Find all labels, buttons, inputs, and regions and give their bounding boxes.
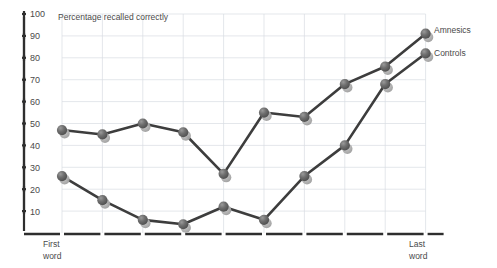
grid-lines [62,14,426,233]
marker-ball [380,79,390,89]
marker-ball [219,202,229,212]
marker-ball [380,61,390,71]
data-point-marker [421,29,434,43]
y-axis-tick-label: 100 [30,9,45,19]
marker-ball [259,215,269,225]
line-chart: 102030405060708090100 Percentage recalle… [0,0,497,268]
marker-ball [178,127,188,137]
y-axis-tick-label: 90 [30,31,40,41]
data-point-marker [57,171,70,185]
y-axis-tick-label: 50 [30,119,40,129]
y-axis-tick-label: 40 [30,141,40,151]
y-axis-tick-label: 10 [30,207,40,217]
marker-ball [299,112,309,122]
data-point-marker [97,195,110,209]
x-axis-last-word-line1: Last [409,239,426,249]
marker-ball [178,219,188,229]
y-axis [22,11,26,231]
data-point-marker [259,215,272,229]
marker-ball [259,107,269,117]
marker-ball [138,215,148,225]
y-axis-tick-label: 60 [30,97,40,107]
data-point-marker [219,169,232,183]
axis-tick-labels: 102030405060708090100 [30,9,45,216]
x-axis-first-word-line1: First [43,239,60,249]
marker-ball [97,195,107,205]
marker-ball [57,125,67,135]
marker-ball [421,48,431,58]
x-axis-first-word-line2: word [42,251,62,261]
data-point-marker [421,48,434,62]
y-axis-tick-label: 20 [30,185,40,195]
y-axis-tick-label: 70 [30,75,40,85]
marker-ball [340,79,350,89]
data-point-marker [57,125,70,139]
legend-label-controls: Controls [434,48,466,58]
x-axis-last-word-line2: word [408,251,428,261]
marker-ball [299,171,309,181]
y-axis-tick-label: 30 [30,163,40,173]
chart-canvas: 102030405060708090100 Percentage recalle… [0,0,497,268]
legend-label-amnesics: Amnesics [434,25,471,35]
series-line-controls [62,53,426,224]
data-point-marker [219,202,232,216]
series-lines [62,34,426,225]
data-point-marker [97,129,110,143]
data-point-marker [178,127,191,141]
chart-title: Percentage recalled correctly [58,12,169,22]
marker-ball [138,118,148,128]
marker-ball [340,140,350,150]
marker-ball [219,169,229,179]
marker-ball [421,29,431,39]
data-point-marker [138,215,151,229]
marker-ball [97,129,107,139]
data-point-marker [340,140,353,154]
data-point-marker [138,118,151,132]
marker-ball [57,171,67,181]
y-axis-tick-label: 80 [30,53,40,63]
